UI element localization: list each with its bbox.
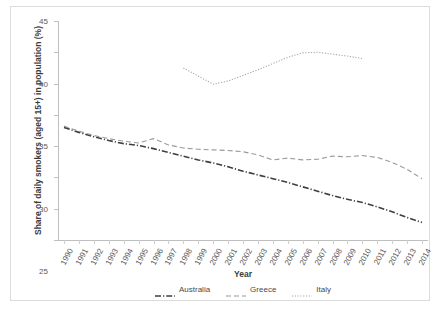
y-tick-label: 45 bbox=[39, 17, 48, 26]
chart-legend: AustraliaGreeceItaly bbox=[58, 285, 428, 294]
x-tick-label: 2007 bbox=[312, 247, 328, 267]
x-tick-mark bbox=[422, 240, 423, 244]
x-tick-label: 1994 bbox=[118, 247, 134, 267]
x-tick-label: 1997 bbox=[163, 247, 179, 267]
chart-container: Share of daily smokers (aged 15+) in pop… bbox=[10, 6, 430, 301]
x-tick-label: 2004 bbox=[268, 247, 284, 267]
x-tick-mark bbox=[228, 240, 229, 244]
x-tick-mark bbox=[273, 240, 274, 244]
x-tick-label: 2014 bbox=[417, 247, 433, 267]
legend-item-greece[interactable]: Greece bbox=[226, 285, 276, 294]
x-tick-label: 2009 bbox=[342, 247, 358, 267]
y-tick-label: 35 bbox=[39, 142, 48, 151]
x-tick-mark bbox=[154, 240, 155, 244]
y-tick-mark: 10 bbox=[54, 240, 58, 241]
plot-area: 1015202530354045 19901991199219931994199… bbox=[58, 21, 428, 240]
x-tick-label: 1998 bbox=[178, 247, 194, 267]
x-tick-label: 1996 bbox=[148, 247, 164, 267]
series-lines bbox=[58, 21, 428, 240]
dotted-swatch bbox=[292, 286, 312, 294]
x-tick-label: 2002 bbox=[238, 247, 254, 267]
legend-item-italy[interactable]: Italy bbox=[292, 285, 331, 294]
x-tick-mark bbox=[183, 240, 184, 244]
x-tick-mark bbox=[109, 240, 110, 244]
x-tick-mark bbox=[303, 240, 304, 244]
x-tick-label: 2008 bbox=[327, 247, 343, 267]
x-tick-mark bbox=[198, 240, 199, 244]
x-axis-title: Year bbox=[58, 269, 428, 279]
x-tick-label: 1992 bbox=[89, 247, 105, 267]
x-tick-mark bbox=[243, 240, 244, 244]
series-line-italy bbox=[183, 52, 362, 84]
x-tick-mark bbox=[139, 240, 140, 244]
x-tick-label: 2006 bbox=[297, 247, 313, 267]
x-tick-mark bbox=[258, 240, 259, 244]
y-tick-label: 40 bbox=[39, 79, 48, 88]
x-tick-label: 2005 bbox=[283, 247, 299, 267]
legend-label: Australia bbox=[179, 285, 210, 294]
series-line-australia bbox=[64, 127, 422, 222]
x-tick-label: 1990 bbox=[59, 247, 75, 267]
legend-label: Italy bbox=[316, 285, 331, 294]
x-tick-mark bbox=[333, 240, 334, 244]
x-tick-label: 2012 bbox=[387, 247, 403, 267]
x-tick-mark bbox=[392, 240, 393, 244]
dashed-swatch bbox=[226, 286, 246, 294]
x-tick-mark bbox=[124, 240, 125, 244]
x-tick-mark bbox=[407, 240, 408, 244]
x-tick-mark bbox=[288, 240, 289, 244]
x-tick-label: 1995 bbox=[133, 247, 149, 267]
y-tick-label: 25 bbox=[39, 267, 48, 276]
dash-dot-swatch bbox=[155, 286, 175, 294]
x-tick-mark bbox=[362, 240, 363, 244]
x-tick-label: 2011 bbox=[372, 247, 388, 266]
x-tick-mark bbox=[94, 240, 95, 244]
x-tick-mark bbox=[168, 240, 169, 244]
x-tick-label: 2000 bbox=[208, 247, 224, 267]
x-tick-label: 1999 bbox=[193, 247, 209, 267]
x-tick-mark bbox=[79, 240, 80, 244]
y-tick-label: 30 bbox=[39, 204, 48, 213]
x-tick-mark bbox=[213, 240, 214, 244]
legend-label: Greece bbox=[250, 285, 276, 294]
x-tick-label: 1993 bbox=[104, 247, 120, 267]
x-tick-label: 2003 bbox=[253, 247, 269, 267]
x-tick-mark bbox=[64, 240, 65, 244]
x-tick-label: 2013 bbox=[402, 247, 418, 267]
x-tick-label: 2001 bbox=[223, 247, 239, 267]
x-tick-label: 2010 bbox=[357, 247, 373, 267]
x-tick-mark bbox=[377, 240, 378, 244]
x-tick-label: 1991 bbox=[74, 247, 90, 267]
x-tick-mark bbox=[347, 240, 348, 244]
x-tick-mark bbox=[318, 240, 319, 244]
legend-item-australia[interactable]: Australia bbox=[155, 285, 210, 294]
